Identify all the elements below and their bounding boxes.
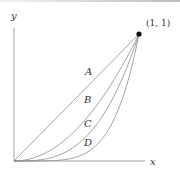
curve-label-a: A (84, 66, 92, 77)
power-curves-diagram: y x (1, 1) A B C D (0, 0, 180, 172)
curve-label-c: C (84, 118, 92, 129)
y-axis-label: y (10, 10, 17, 21)
point-label: (1, 1) (146, 18, 170, 28)
curve-label-b: B (83, 94, 91, 105)
x-axis-label: x (150, 156, 156, 167)
curve-a (14, 34, 139, 161)
curve-label-d: D (83, 137, 92, 148)
point-marker (136, 31, 141, 36)
